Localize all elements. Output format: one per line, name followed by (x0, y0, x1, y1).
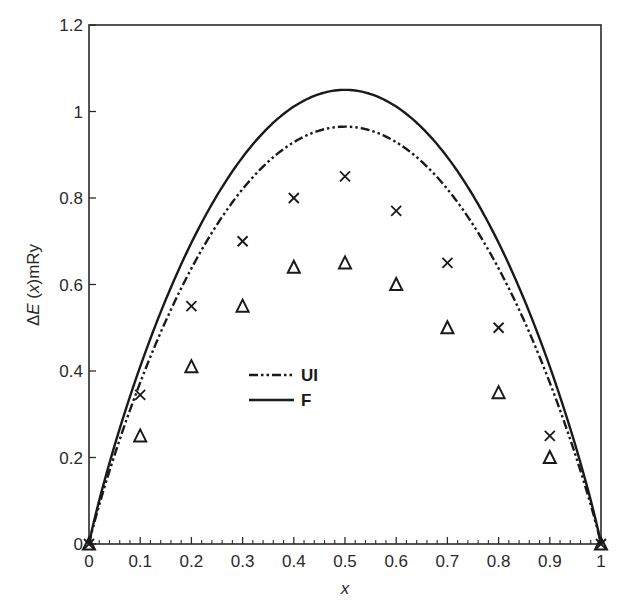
y-axis-label: ΔE (x)mRy (24, 243, 43, 326)
y-tick-label: 1.2 (59, 16, 83, 35)
x-tick-label: 0.7 (436, 552, 460, 571)
y-tick-label: 0.4 (59, 362, 83, 381)
legend-ui-label: UI (301, 366, 318, 385)
x-tick-label: 0.5 (333, 552, 357, 571)
legend-f-label: F (301, 391, 311, 410)
x-tick-label: 1 (596, 552, 605, 571)
x-tick-label: 0.2 (180, 552, 204, 571)
x-tick-label: 0.9 (538, 552, 562, 571)
x-tick-label: 0.8 (487, 552, 511, 571)
x-tick-label: 0 (84, 552, 93, 571)
y-tick-label: 0.8 (59, 189, 83, 208)
y-tick-label: 1 (74, 103, 83, 122)
x-tick-label: 0.4 (282, 552, 306, 571)
x-tick-label: 0.1 (128, 552, 152, 571)
chart: 00.10.20.30.40.50.60.70.80.91 00.20.40.6… (0, 0, 623, 616)
y-tick-label: 0 (74, 535, 83, 554)
y-tick-label: 0.2 (59, 449, 83, 468)
y-tick-label: 0.6 (59, 276, 83, 295)
x-axis-label: x (340, 579, 350, 598)
x-tick-label: 0.3 (231, 552, 255, 571)
x-tick-label: 0.6 (384, 552, 408, 571)
